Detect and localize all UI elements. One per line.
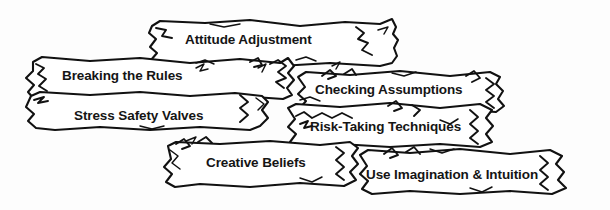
stone-label-breaking-the-rules: Breaking the Rules (62, 69, 183, 83)
stone-label-risk-taking-techniques: Risk-Taking Techniques (310, 120, 461, 134)
stone-label-use-imagination-intuition: Use Imagination & Intuition (366, 168, 538, 182)
stone-wall-diagram: Attitude Adjustment Breaking the Rules C… (0, 0, 610, 210)
stone-label-attitude-adjustment: Attitude Adjustment (185, 33, 312, 47)
stone-label-creative-beliefs: Creative Beliefs (206, 156, 306, 170)
stone-label-stress-safety-valves: Stress Safety Valves (74, 109, 203, 123)
stone-label-checking-assumptions: Checking Assumptions (315, 83, 463, 97)
